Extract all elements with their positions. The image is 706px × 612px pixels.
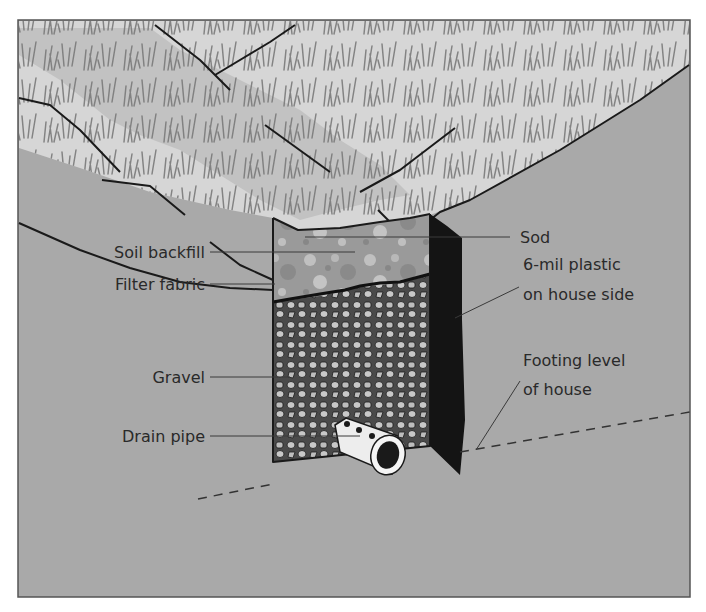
label-footing-line2: of house — [523, 380, 592, 399]
plastic-sheet — [430, 214, 465, 475]
label-plastic-line1: 6-mil plastic — [523, 255, 621, 274]
label-filter-fabric: Filter fabric — [115, 275, 205, 294]
label-gravel: Gravel — [152, 368, 205, 387]
trench-drain-diagram: Sod Soil backfill Filter fabric Gravel D… — [0, 0, 706, 612]
label-plastic-line2: on house side — [523, 285, 634, 304]
label-footing-line1: Footing level — [523, 351, 625, 370]
label-sod: Sod — [520, 228, 550, 247]
label-drain-pipe: Drain pipe — [122, 427, 205, 446]
pipe-hole-icon — [356, 427, 362, 433]
pipe-hole-icon — [344, 421, 350, 427]
pipe-hole-icon — [369, 433, 375, 439]
label-soil-backfill: Soil backfill — [114, 243, 205, 262]
